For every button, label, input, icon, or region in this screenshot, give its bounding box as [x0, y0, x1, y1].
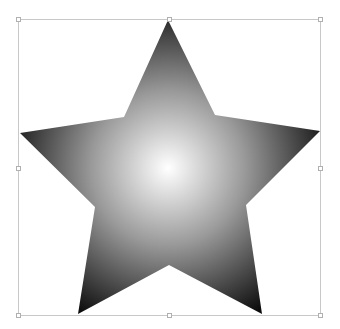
- resize-handle-top-right[interactable]: [319, 18, 323, 22]
- resize-handle-middle-right[interactable]: [319, 167, 323, 171]
- resize-handle-bottom-left[interactable]: [17, 314, 21, 318]
- star-shape[interactable]: [20, 20, 320, 314]
- drawing-canvas[interactable]: [0, 0, 340, 329]
- resize-handle-top-center[interactable]: [168, 18, 172, 22]
- resize-handle-middle-left[interactable]: [17, 167, 21, 171]
- resize-handle-bottom-right[interactable]: [319, 314, 323, 318]
- resize-handle-bottom-center[interactable]: [168, 314, 172, 318]
- resize-handle-top-left[interactable]: [17, 18, 21, 22]
